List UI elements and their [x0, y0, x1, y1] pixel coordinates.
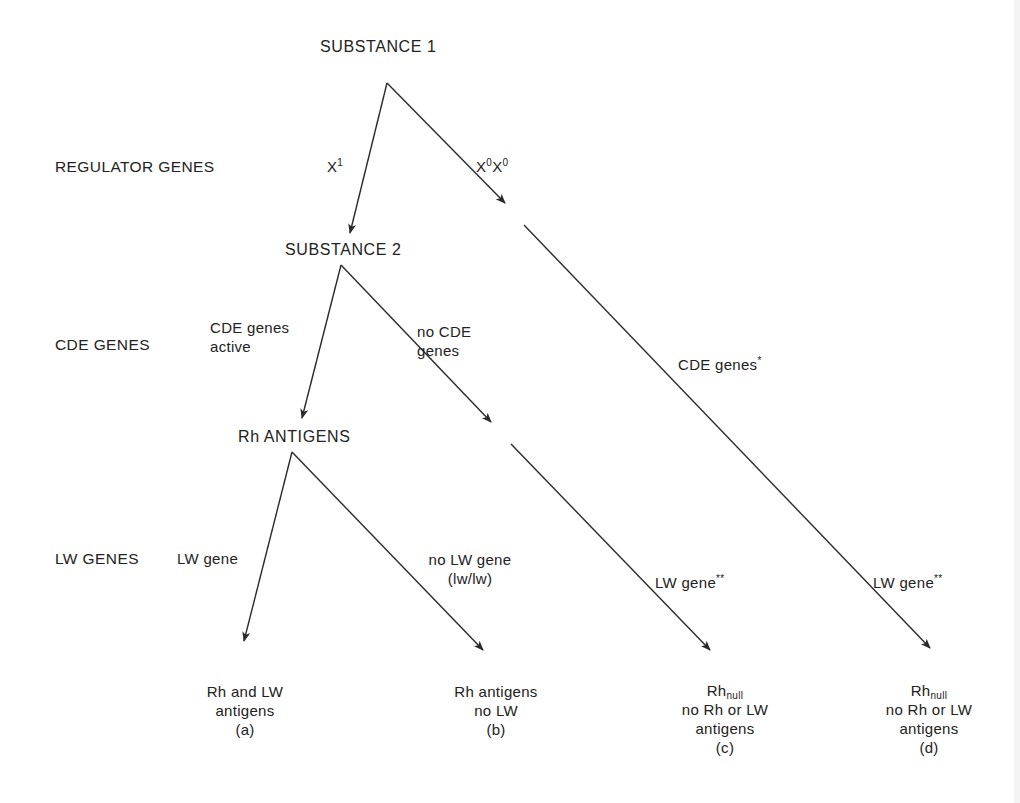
lw-gene-d-text: LW gene [873, 574, 934, 591]
x1-sup: 1 [337, 157, 343, 168]
no-lw-line-1: no LW gene [410, 550, 530, 569]
cde-active-line-1: CDE genes [210, 318, 289, 337]
row-label-lw-genes: LW GENES [55, 549, 139, 568]
no-cde-line-1: no CDE [417, 322, 471, 341]
lw-gene-d-sup: ** [934, 573, 942, 584]
outcome-d-line-3: (d) [864, 738, 994, 757]
cde-active-line-2: active [210, 337, 289, 356]
x0x0-base-1: X [476, 158, 486, 175]
node-substance-1: SUBSTANCE 1 [320, 37, 437, 56]
node-rh-antigens: Rh ANTIGENS [238, 427, 350, 446]
outcome-a: Rh and LW antigens (a) [185, 682, 305, 739]
x1-base: X [327, 158, 337, 175]
outcome-c-line-1: no Rh or LW [660, 700, 790, 719]
outcome-a-line-1: Rh and LW [185, 682, 305, 701]
edge-label-cde-active: CDE genes active [210, 318, 289, 356]
x0x0-sup-2: 0 [503, 157, 509, 168]
cde-star-text: CDE genes [678, 356, 757, 373]
outcome-c: Rhnull no Rh or LW antigens (c) [660, 681, 790, 757]
line-cde-star-to-d [524, 225, 930, 648]
edge-label-x0x0: X0X0 [476, 157, 508, 176]
outcome-b-line-1: Rh antigens [436, 682, 556, 701]
lw-gene-c-text: LW gene [655, 574, 716, 591]
edge-label-no-lw-gene: no LW gene (lw/lw) [410, 550, 530, 588]
edge-label-x1: X1 [327, 157, 343, 176]
outcome-d-title: Rhnull [864, 681, 994, 700]
no-cde-line-2: genes [417, 341, 471, 360]
arrow-cde-active [302, 265, 341, 418]
no-lw-line-2: (lw/lw) [410, 569, 530, 588]
cde-star-sup: * [757, 355, 761, 366]
edge-label-cde-genes-star: CDE genes* [678, 355, 762, 374]
arrow-lw-gene [244, 452, 292, 641]
outcome-c-title-base: Rh [707, 682, 727, 699]
arrow-x0x0 [387, 83, 505, 203]
outcome-b: Rh antigens no LW (b) [436, 682, 556, 739]
outcome-a-line-3: (a) [185, 720, 305, 739]
outcome-d: Rhnull no Rh or LW antigens (d) [864, 681, 994, 757]
outcome-d-line-2: antigens [864, 719, 994, 738]
x0x0-base-2: X [492, 158, 502, 175]
row-label-regulator-genes: REGULATOR GENES [55, 157, 215, 176]
row-label-cde-genes: CDE GENES [55, 335, 150, 354]
outcome-b-line-3: (b) [436, 720, 556, 739]
outcome-c-title: Rhnull [660, 681, 790, 700]
edge-label-lw-gene-c: LW gene** [655, 573, 724, 592]
lw-gene-c-sup: ** [716, 573, 724, 584]
line-lw-to-c [511, 444, 710, 650]
outcome-a-line-2: antigens [185, 701, 305, 720]
arrow-x1-to-substance2 [350, 83, 387, 233]
outcome-c-line-2: antigens [660, 719, 790, 738]
outcome-d-line-1: no Rh or LW [864, 700, 994, 719]
edge-label-lw-gene-d: LW gene** [873, 573, 942, 592]
edge-label-no-cde: no CDE genes [417, 322, 471, 360]
outcome-b-line-2: no LW [436, 701, 556, 720]
node-substance-2: SUBSTANCE 2 [285, 240, 402, 259]
outcome-c-line-3: (c) [660, 738, 790, 757]
edge-label-lw-gene: LW gene [177, 549, 238, 568]
outcome-d-title-base: Rh [911, 682, 931, 699]
